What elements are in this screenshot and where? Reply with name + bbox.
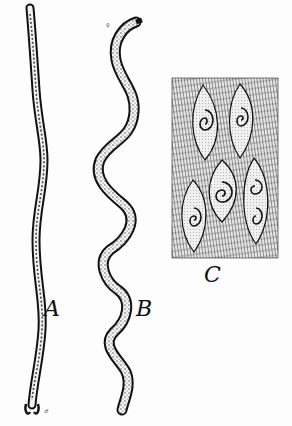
panel-label-c: C [204,262,221,287]
panel-label-a: A [44,296,60,321]
muscle-section-c [172,78,278,258]
illustration [0,0,292,426]
worm-b [98,20,142,410]
panel-label-b: B [136,296,152,321]
head-mark-b: ♀ [106,22,110,28]
worm-a [25,8,44,414]
tail-mark-a: ♂ [44,408,48,414]
